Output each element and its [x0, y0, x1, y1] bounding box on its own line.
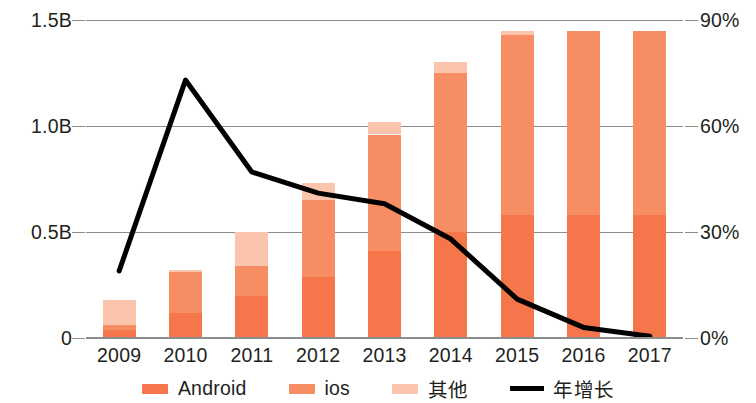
y-axis-right-tick	[685, 126, 698, 127]
y-axis-left-tick	[72, 232, 85, 233]
y-axis-right-tick	[685, 338, 698, 339]
y-axis-right-tick-label: 60%	[700, 115, 740, 138]
y-axis-right-tick-label: 0%	[700, 327, 729, 350]
legend-swatch-marker	[289, 384, 315, 394]
legend-item[interactable]: 其他	[392, 374, 468, 403]
y-axis-left-tick	[72, 338, 85, 339]
x-axis-tick-label: 2012	[296, 344, 340, 367]
legend-swatch-marker	[392, 384, 418, 394]
legend-item[interactable]: 年增长	[510, 374, 614, 403]
legend-label: ios	[325, 377, 351, 400]
y-axis-left-tick	[72, 20, 85, 21]
growth-line-series	[86, 20, 683, 338]
chart-legend: Androidios其他年增长	[0, 374, 756, 403]
stacked-bar-line-chart: 00.5B1.0B1.5B 0%30%60%90% 20092010201120…	[0, 0, 756, 403]
x-axis-tick-label: 2014	[429, 344, 473, 367]
legend-label: 其他	[428, 374, 468, 403]
y-axis-left-tick-label: 1.0B	[31, 115, 72, 138]
y-axis-right-tick	[685, 20, 698, 21]
x-axis-tick-label: 2013	[362, 344, 406, 367]
y-axis-right-tick-label: 90%	[700, 9, 740, 32]
legend-label: Android	[178, 377, 247, 400]
x-axis-tick-label: 2015	[495, 344, 539, 367]
growth-line-path	[119, 80, 650, 336]
x-axis-tick-label: 2010	[163, 344, 207, 367]
plot-area	[86, 20, 683, 338]
x-axis-tick-label: 2009	[97, 344, 141, 367]
y-axis-left-tick	[72, 126, 85, 127]
x-axis-tick-label: 2016	[561, 344, 605, 367]
x-axis-tick-label: 2011	[230, 344, 273, 367]
y-axis-right-tick	[685, 232, 698, 233]
legend-line-marker	[510, 386, 544, 391]
legend-swatch-marker	[142, 384, 168, 394]
legend-item[interactable]: Android	[142, 377, 247, 400]
x-axis-labels: 200920102011201220132014201520162017	[86, 344, 683, 370]
x-axis-baseline	[86, 337, 683, 339]
y-axis-right-tick-label: 30%	[700, 221, 740, 244]
y-axis-left-tick-label: 0.5B	[31, 221, 72, 244]
y-axis-left-tick-label: 1.5B	[31, 9, 72, 32]
y-axis-left-tick-label: 0	[61, 327, 72, 350]
legend-item[interactable]: ios	[289, 377, 351, 400]
x-axis-tick-label: 2017	[628, 344, 672, 367]
legend-label: 年增长	[553, 374, 614, 403]
